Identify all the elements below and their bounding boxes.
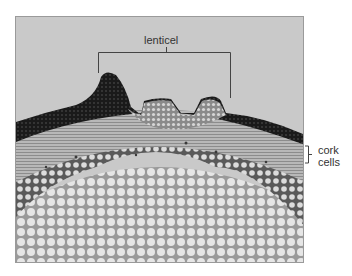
cork-cells-label: cork cells	[318, 144, 348, 168]
lenticel-label: lenticel	[144, 34, 178, 46]
lenticel-bracket	[99, 53, 231, 99]
cork-label-line1: cork	[318, 144, 348, 156]
cork-label-line2: cells	[318, 156, 348, 168]
cork-bracket	[305, 146, 309, 163]
